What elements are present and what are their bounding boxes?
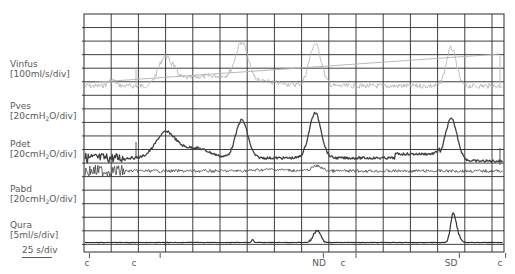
channel-name: Pves [10, 101, 31, 111]
channel-label-vinfus: Vinfus [100ml/s/div] [10, 59, 70, 79]
time-scale-bar [22, 257, 52, 258]
event-marker-nd: ND [312, 258, 326, 268]
channel-unit: [5ml/s/div] [10, 230, 58, 240]
channel-label-pabd: Pabd [20cmH2O/div] [10, 184, 76, 207]
event-marker-c: c [498, 258, 503, 268]
time-scale-label: 25 s/div [22, 245, 58, 255]
event-marker-c: c [341, 258, 346, 268]
channel-unit: [100ml/s/div] [10, 69, 70, 79]
channel-unit: [20cmH2O/div] [10, 111, 76, 124]
channel-label-pves: Pves [20cmH2O/div] [10, 101, 76, 124]
channel-name: Vinfus [10, 59, 38, 69]
chart-grid [82, 14, 504, 252]
channel-label-qura: Qura [5ml/s/div] [10, 220, 58, 240]
traces [84, 41, 503, 243]
urodynamic-trace-chart [0, 0, 515, 274]
channel-unit: [20cmH2O/div] [10, 194, 76, 207]
event-marker-c: c [85, 258, 90, 268]
channel-label-pdet: Pdet [20cmH2O/div] [10, 139, 76, 162]
event-marker-c: c [132, 258, 137, 268]
channel-name: Pdet [10, 139, 30, 149]
event-marker-sd: SD [445, 258, 458, 268]
event-ticks [89, 253, 505, 258]
channel-name: Pabd [10, 184, 32, 194]
channel-name: Qura [10, 220, 32, 230]
channel-unit: [20cmH2O/div] [10, 149, 76, 162]
